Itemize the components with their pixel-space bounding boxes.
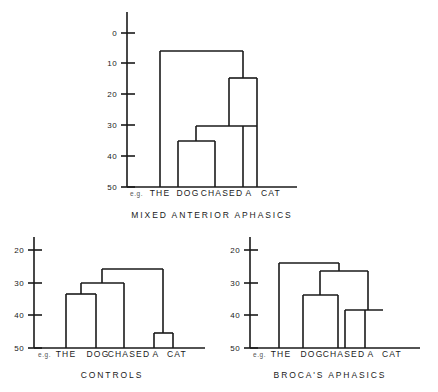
y-tick-label-20: 20 — [230, 246, 240, 255]
y-tick-label-30: 30 — [230, 279, 240, 288]
dendrogram-figure: 0 10 20 30 40 50 — [0, 0, 438, 392]
figure-canvas: 0 10 20 30 40 50 — [0, 0, 438, 392]
y-tick-label-20: 20 — [14, 246, 24, 255]
leaf-label-a: A — [368, 349, 375, 359]
leaf-label-chased: CHASED — [201, 188, 244, 198]
y-tick-label-40: 40 — [14, 311, 24, 320]
leaf-labels-controls: e.g. THE DOG CHASED A CAT — [38, 349, 187, 359]
dendrogram-tree-brocas-aphasics — [279, 263, 383, 348]
y-tick-label-30: 30 — [107, 121, 117, 130]
leaf-label-cat: CAT — [261, 188, 281, 198]
eg-label: e.g. — [253, 351, 266, 359]
leaf-label-cat: CAT — [382, 349, 402, 359]
axis-controls: 20 30 40 50 — [14, 237, 205, 353]
y-tick-label-40: 40 — [230, 311, 240, 320]
leaf-label-the: THE — [56, 349, 77, 359]
panel-title-mixed-anterior-aphasics: MIXED ANTERIOR APHASICS — [131, 210, 292, 220]
y-tick-label-40: 40 — [107, 152, 117, 161]
panel-brocas-aphasics: 20 30 40 50 e.g. — [230, 237, 420, 380]
leaf-label-dog: DOG — [301, 349, 324, 359]
y-tick-label-50: 50 — [230, 344, 240, 353]
panel-controls: 20 30 40 50 e. — [14, 237, 205, 380]
dendrogram-tree-mixed-anterior-aphasics — [160, 51, 257, 187]
panel-title-controls: CONTROLS — [81, 370, 143, 380]
axis-mixed-anterior-aphasics: 0 10 20 30 40 50 — [107, 12, 297, 192]
leaf-label-the: THE — [271, 349, 292, 359]
dendrogram-tree-controls — [66, 269, 173, 348]
leaf-label-cat: CAT — [167, 349, 187, 359]
panel-mixed-anterior-aphasics: 0 10 20 30 40 50 — [107, 12, 297, 220]
leaf-labels-brocas-aphasics: e.g. THE DOG CHASED A CAT — [253, 349, 402, 359]
leaf-labels-mixed-anterior-aphasics: e.g. THE DOG CHASED A CAT — [130, 188, 281, 198]
y-tick-label-50: 50 — [107, 183, 117, 192]
panel-title-brocas-aphasics: BROCA'S APHASICS — [274, 370, 387, 380]
leaf-label-dog: DOG — [87, 349, 110, 359]
leaf-label-chased: CHASED — [108, 349, 151, 359]
leaf-label-a: A — [153, 349, 160, 359]
leaf-label-the: THE — [150, 188, 171, 198]
y-tick-label-20: 20 — [107, 90, 117, 99]
y-tick-label-10: 10 — [107, 59, 117, 68]
eg-label: e.g. — [130, 190, 143, 198]
y-tick-label-30: 30 — [14, 279, 24, 288]
leaf-label-a: A — [246, 188, 253, 198]
leaf-label-chased: CHASED — [323, 349, 366, 359]
y-tick-label-0: 0 — [112, 29, 117, 38]
eg-label: e.g. — [38, 351, 51, 359]
leaf-label-dog: DOG — [177, 188, 200, 198]
y-tick-label-50: 50 — [14, 344, 24, 353]
